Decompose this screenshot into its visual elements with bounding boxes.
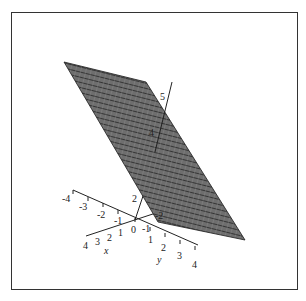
x-tick-neg4: -4 (62, 193, 70, 204)
x-tick-four: 4 (83, 240, 88, 251)
y-tick-one: 1 (148, 234, 153, 245)
y-tick-neg1: -1 (142, 223, 150, 234)
z-tick-two: 2 (132, 193, 137, 204)
x-tick-neg2: -2 (97, 209, 105, 220)
x-tick-zero: 0 (131, 224, 136, 235)
x-tick-three: 3 (95, 236, 100, 247)
y-ticks (150, 227, 195, 250)
y-axis-title: y (156, 254, 162, 265)
y-tick-three: 3 (177, 250, 182, 261)
x-tick-neg1: -1 (114, 215, 122, 226)
z-tick-four: 4 (149, 127, 154, 138)
y-tick-neg2: -2 (155, 210, 163, 221)
x-tick-two: 2 (107, 232, 112, 243)
z-tick-five: 5 (160, 91, 165, 102)
x-tick-neg3: -3 (79, 201, 87, 212)
y-tick-four: 4 (192, 259, 197, 270)
x-tick-one: 1 (118, 227, 123, 238)
plot-canvas[interactable]: -4 -3 -2 -1 0 1 2 3 4 x -2 -1 1 2 3 4 y … (0, 0, 306, 301)
x-axis-title: x (103, 245, 109, 256)
y-tick-two: 2 (161, 242, 166, 253)
